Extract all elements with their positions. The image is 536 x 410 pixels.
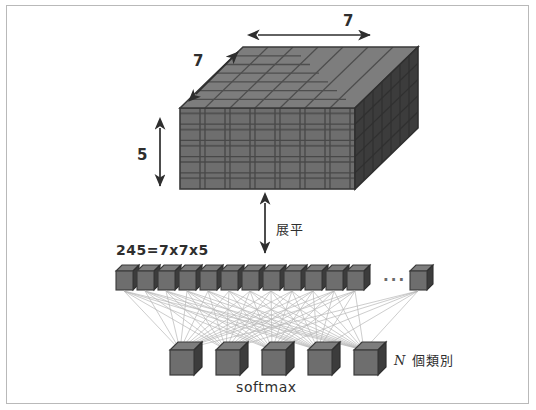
vector-cube-trailing <box>410 265 433 290</box>
volume-height-label: 5 <box>137 146 147 164</box>
flatten-label: 展平 <box>276 219 304 238</box>
vector-cube <box>305 265 328 290</box>
vector-cube <box>263 265 286 290</box>
output-cube <box>262 342 294 375</box>
output-cube <box>170 342 202 375</box>
output-cube <box>354 342 386 375</box>
vector-cube <box>200 265 223 290</box>
ellipsis-label: ... <box>383 267 406 285</box>
vector-cube <box>284 265 307 290</box>
vector-cube <box>347 265 370 290</box>
diagram-canvas: 7 7 5 展平 245=7x7x5 ... N 個類別 softmax <box>0 0 536 410</box>
vector-cube <box>179 265 202 290</box>
vector-cube <box>137 265 160 290</box>
classes-count-label: N 個類別 <box>394 350 454 369</box>
vector-cube <box>221 265 244 290</box>
volume-width-label: 7 <box>343 12 353 30</box>
vector-cube <box>158 265 181 290</box>
softmax-label: softmax <box>236 379 297 395</box>
volume-depth-label: 7 <box>193 52 203 70</box>
diagram-graphics <box>0 0 536 410</box>
feature-map-volume <box>126 47 418 189</box>
output-cube <box>308 342 340 375</box>
fully-connected-edges <box>124 291 418 350</box>
classes-count-text: 個類別 <box>406 353 453 368</box>
vector-cube <box>116 265 139 290</box>
classes-count-symbol: N <box>394 353 406 368</box>
flattened-count-label: 245=7x7x5 <box>116 242 209 258</box>
vector-cube <box>242 265 265 290</box>
output-cube <box>216 342 248 375</box>
vector-cube <box>326 265 349 290</box>
